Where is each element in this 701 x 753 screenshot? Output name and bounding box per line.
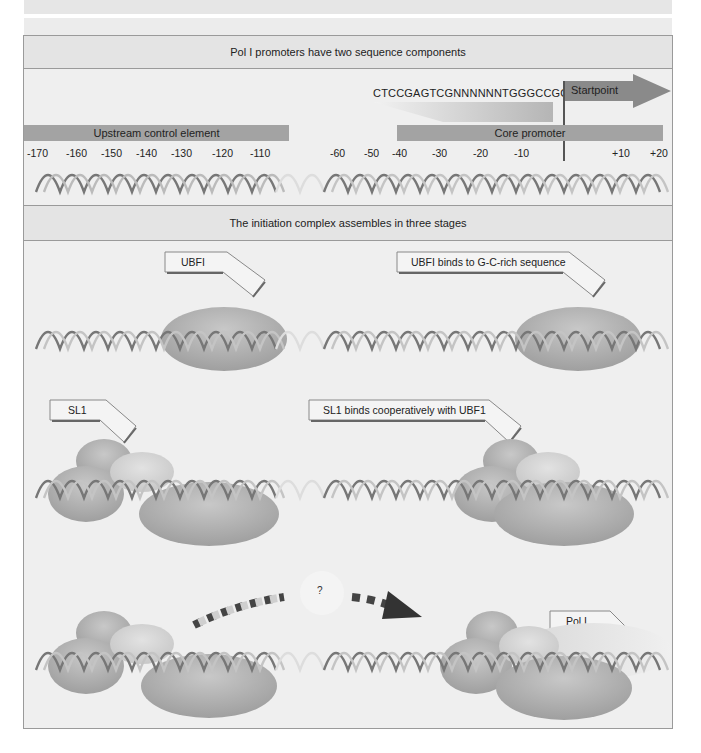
tick: -50 [364,147,379,159]
tick: -30 [432,147,447,159]
tick: -110 [250,147,270,159]
stage1-graphic [24,301,672,371]
gc-rich-sequence: CTCCGAGTCGNNNNNNTGGGCCGCCGG [373,87,594,99]
ubf1-protein [494,482,634,546]
sl1-label: SL1 [68,404,87,416]
tick: +10 [612,147,630,159]
core-label: Core promoter [495,127,566,139]
tick: -20 [473,147,488,159]
question-mark: ? [317,585,323,596]
figure-frame: Pol I promoters have two sequence compon… [23,35,673,729]
panel1-title: Pol I promoters have two sequence compon… [24,35,672,69]
sl1-light-subunit [110,624,174,664]
tick: -150 [101,147,122,159]
tick: -160 [66,147,87,159]
stage3-graphic [24,606,672,736]
sequence-wedge [373,102,553,124]
panel1-title-text: Pol I promoters have two sequence compon… [230,46,465,58]
tick: -130 [171,147,192,159]
sl1-light-subunit [110,452,174,492]
ubf1-protein-bound [515,307,641,371]
panel2-title: The initiation complex assembles in thre… [24,205,672,241]
dna-helix-promoter [24,164,672,198]
panel2-title-text: The initiation complex assembles in thre… [229,217,466,229]
top-band [24,18,672,36]
core-promoter-bar: Core promoter [397,125,663,141]
upstream-label: Upstream control element [94,127,220,139]
startpoint-label: Startpoint [571,84,618,96]
tick: +20 [650,147,668,159]
ubfi-binds-label: UBFI binds to G-C-rich sequence [411,256,566,268]
stage2-graphic [24,434,672,564]
tick: -60 [330,147,345,159]
sl1-binds-label: SL1 binds cooperatively with UBF1 [323,404,486,416]
ubfi-label: UBFI [181,256,205,268]
top-strip [24,0,672,14]
tick: -120 [212,147,233,159]
startpoint-line [563,81,565,161]
tick: -40 [392,147,407,159]
tick: -10 [514,147,529,159]
upstream-control-element-bar: Upstream control element [24,125,289,141]
tick: -170 [27,147,48,159]
tick: -140 [136,147,157,159]
